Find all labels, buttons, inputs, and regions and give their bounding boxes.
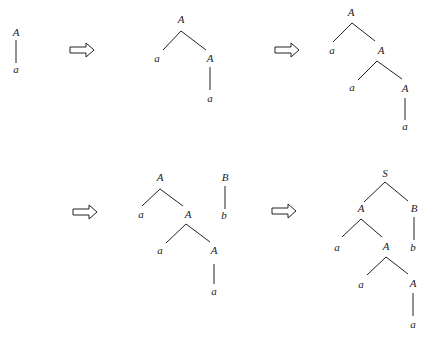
terminal-node: a xyxy=(157,244,163,256)
tree-edge xyxy=(364,182,385,202)
terminal-node: a xyxy=(358,278,364,290)
tree-edge xyxy=(358,61,377,80)
derivation-diagram: AaAaAaAaAaAaAaAaAaBbSABaAbaAa xyxy=(0,0,431,339)
nonterminal-node: A xyxy=(210,244,218,256)
tree-edge xyxy=(352,23,375,41)
tree-edge xyxy=(163,31,181,50)
tree-edge xyxy=(377,61,402,79)
nonterminal-node: S xyxy=(382,167,388,179)
tree-edge xyxy=(333,23,352,42)
tree-edge xyxy=(142,189,160,206)
terminal-node: a xyxy=(349,81,355,93)
parse-tree-3: AaAaAa xyxy=(329,6,408,132)
derivation-arrow-icon xyxy=(70,43,94,57)
terminal-node: a xyxy=(138,208,144,220)
tree-edge xyxy=(361,219,382,237)
tree-edge xyxy=(181,31,206,50)
terminal-node: a xyxy=(211,285,217,297)
tree-edge xyxy=(166,224,186,243)
nonterminal-node: A xyxy=(377,44,385,56)
terminal-node: a xyxy=(410,318,416,330)
tree-edge xyxy=(386,257,408,274)
terminal-node: a xyxy=(334,241,340,253)
parse-tree-2: AaAa xyxy=(154,13,213,104)
terminal-node: a xyxy=(13,63,19,75)
terminal-node: b xyxy=(221,209,227,221)
parse-tree-5: SABaAbaAa xyxy=(334,167,417,330)
parse-tree-4: AaAaAaBb xyxy=(138,171,228,297)
parse-tree-1: Aa xyxy=(12,26,20,75)
nonterminal-node: A xyxy=(206,52,214,64)
nonterminal-node: A xyxy=(184,208,192,220)
terminal-node: a xyxy=(154,52,160,64)
terminal-node: a xyxy=(329,44,335,56)
terminal-node: a xyxy=(402,120,408,132)
terminal-node: a xyxy=(207,92,213,104)
nonterminal-node: A xyxy=(156,171,164,183)
nonterminal-node: A xyxy=(357,202,365,214)
nonterminal-node: A xyxy=(409,277,417,289)
terminal-node: b xyxy=(410,241,416,253)
nonterminal-node: A xyxy=(382,240,390,252)
nonterminal-node: A xyxy=(12,26,20,38)
tree-edge xyxy=(160,189,183,206)
nonterminal-node: A xyxy=(177,13,185,25)
tree-edge xyxy=(367,257,386,275)
tree-edge xyxy=(342,219,361,237)
nonterminal-node: A xyxy=(347,6,355,18)
derivation-arrow-icon xyxy=(73,205,97,219)
nonterminal-node: A xyxy=(401,82,409,94)
derivation-arrow-icon xyxy=(272,204,296,218)
nonterminal-node: B xyxy=(222,171,229,183)
derivation-arrow-icon xyxy=(275,43,299,57)
tree-edge xyxy=(385,182,408,201)
tree-edge xyxy=(186,224,210,242)
nonterminal-node: B xyxy=(411,202,418,214)
